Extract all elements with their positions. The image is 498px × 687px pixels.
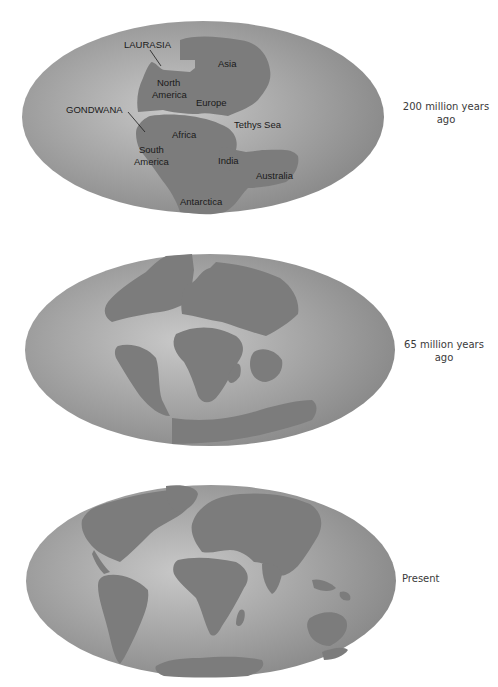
panel-present: Present <box>0 470 498 687</box>
era-label-line1: 200 million years <box>394 100 498 113</box>
panel-200-million-years: LAURASIA GONDWANA Asia North America Eur… <box>0 0 498 230</box>
label-gondwana: GONDWANA <box>66 104 123 115</box>
label-laurasia: LAURASIA <box>124 39 172 50</box>
label-africa: Africa <box>172 129 197 140</box>
label-australia: Australia <box>256 170 294 181</box>
era-label-200-ma: 200 million years ago <box>394 100 498 126</box>
label-south-america-line1: South <box>139 144 164 155</box>
era-label-line2: ago <box>392 351 496 364</box>
label-antarctica: Antarctica <box>180 196 223 207</box>
label-india: India <box>218 155 239 166</box>
panel-65-million-years: 65 million years ago <box>0 240 498 460</box>
label-south-america-line2: America <box>134 156 170 167</box>
era-label-line1: 65 million years <box>392 338 496 351</box>
era-label-65-ma: 65 million years ago <box>392 338 496 364</box>
label-north-america-line1: North <box>157 77 180 88</box>
label-asia: Asia <box>218 58 237 69</box>
label-tethys-sea: Tethys Sea <box>234 119 282 130</box>
label-europe: Europe <box>196 97 227 108</box>
era-label-line1: Present <box>402 572 462 585</box>
era-label-line2: ago <box>394 113 498 126</box>
label-north-america-line2: America <box>152 89 188 100</box>
era-label-present: Present <box>402 572 462 585</box>
